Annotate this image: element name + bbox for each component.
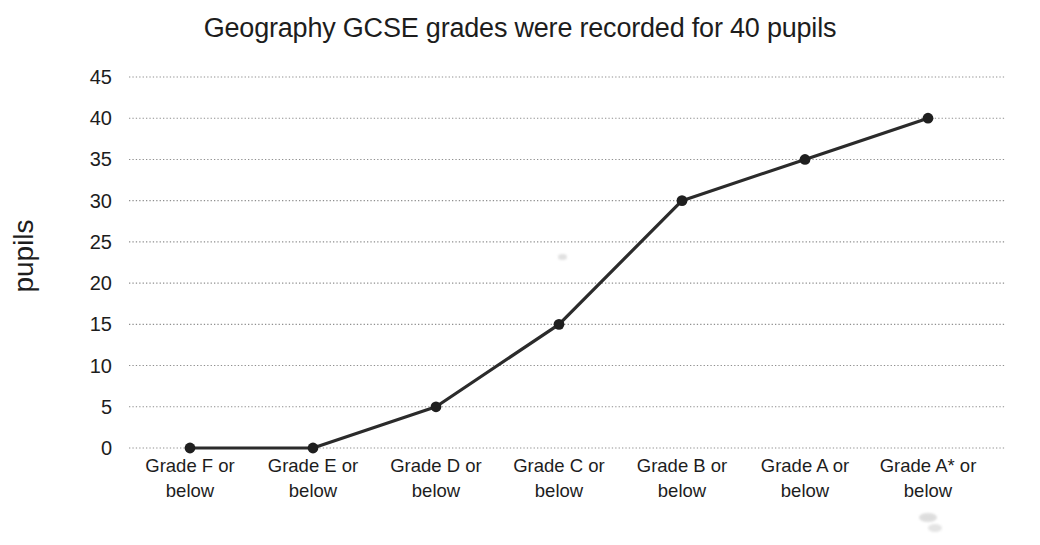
- y-tick-label: 40: [90, 107, 112, 129]
- x-axis-category: Grade A orbelow: [761, 455, 849, 501]
- y-tick-label: 5: [101, 396, 112, 418]
- x-axis-category: Grade D orbelow: [390, 455, 482, 501]
- y-tick-label: 30: [90, 190, 112, 212]
- data-point: [431, 401, 442, 412]
- x-axis-category: Grade A* orbelow: [880, 455, 977, 501]
- data-point: [677, 195, 688, 206]
- y-tick-label: 0: [101, 437, 112, 459]
- data-point: [800, 154, 811, 165]
- y-tick-label: 20: [90, 272, 112, 294]
- y-tick-label: 35: [90, 148, 112, 170]
- scan-artifact: [928, 524, 942, 532]
- data-point: [554, 319, 565, 330]
- data-point: [308, 443, 319, 454]
- scan-artifact: [919, 513, 937, 522]
- x-axis-category: Grade E orbelow: [268, 455, 359, 501]
- scan-artifact: [558, 254, 567, 260]
- x-axis-category: Grade B orbelow: [637, 455, 728, 501]
- plot-area: 454035302520151050Grade F orbelowGrade E…: [0, 0, 1040, 545]
- x-axis-category: Grade F orbelow: [145, 455, 234, 501]
- y-tick-label: 25: [90, 231, 112, 253]
- y-tick-label: 45: [90, 66, 112, 88]
- x-axis-category: Grade C orbelow: [513, 455, 605, 501]
- y-tick-label: 15: [90, 313, 112, 335]
- data-point: [923, 113, 934, 124]
- data-series-line: [190, 118, 928, 448]
- data-point: [185, 443, 196, 454]
- y-tick-label: 10: [90, 355, 112, 377]
